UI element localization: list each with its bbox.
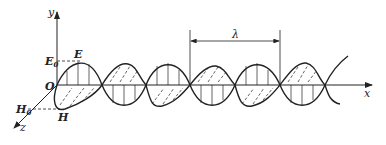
origin-label: O <box>45 80 55 93</box>
e0-label: E0 <box>44 55 58 69</box>
h0-label: H0 <box>15 103 31 117</box>
h-field-wave <box>54 63 340 110</box>
em-wave-diagram: y x z O E E0 H H0 λ <box>0 0 386 145</box>
y-axis-label: y <box>47 6 55 19</box>
e-label: E <box>73 48 83 61</box>
wavelength-label: λ <box>231 28 239 41</box>
z-axis-label: z <box>19 121 26 134</box>
h-label: H <box>57 111 69 124</box>
x-axis-label: x <box>364 87 371 100</box>
